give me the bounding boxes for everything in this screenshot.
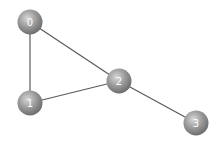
- node-1[interactable]: 1: [18, 91, 43, 116]
- node-0[interactable]: 0: [18, 10, 43, 35]
- nodes-layer: 0123: [18, 10, 209, 136]
- node-label: 2: [116, 76, 122, 87]
- node-label: 1: [27, 98, 33, 109]
- node-2[interactable]: 2: [107, 69, 132, 94]
- node-label: 0: [27, 17, 33, 28]
- edge-2-3: [119, 81, 196, 123]
- graph-canvas: 0123: [0, 0, 222, 148]
- edge-1-2: [30, 81, 119, 103]
- node-3[interactable]: 3: [184, 111, 209, 136]
- edge-0-2: [30, 22, 119, 81]
- node-label: 3: [193, 118, 199, 129]
